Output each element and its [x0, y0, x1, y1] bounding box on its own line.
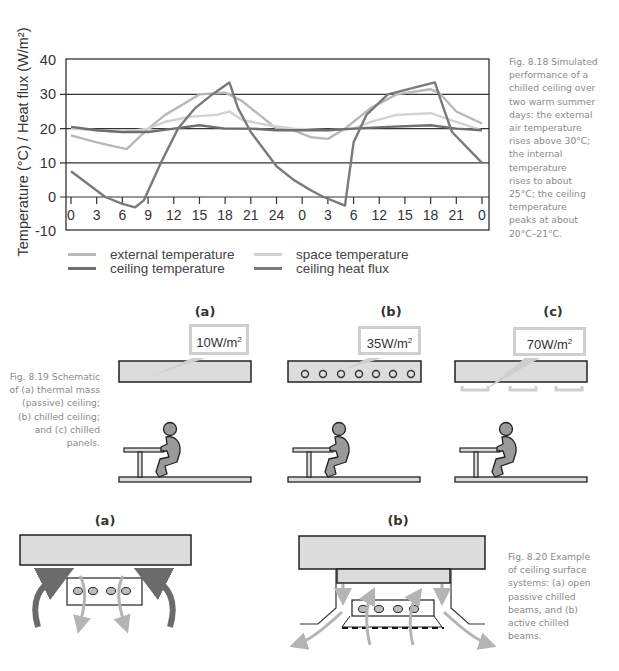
warm-air-arrow-icon [150, 576, 173, 627]
ceiling-slab [20, 535, 191, 565]
supply-air-arrow-icon [298, 612, 342, 644]
supply-air-arrow-icon [444, 612, 488, 644]
ceiling-slab [299, 536, 485, 569]
passive-beam-diagram [20, 535, 191, 627]
beam-casing [337, 569, 450, 583]
warm-air-arrow-icon [35, 576, 58, 627]
active-beam-diagram [298, 536, 488, 645]
fig-8-20-schematic [0, 0, 619, 671]
